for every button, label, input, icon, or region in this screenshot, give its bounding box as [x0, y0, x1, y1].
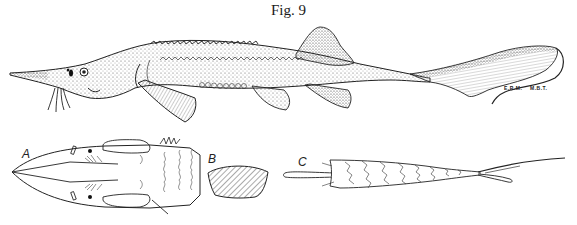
anal-fin	[305, 84, 351, 108]
barbels	[48, 88, 70, 112]
panel-b-scute-detail: B	[208, 152, 268, 198]
panel-a-head-ventral-view: A	[12, 137, 200, 214]
body	[10, 40, 430, 98]
panel-label-b: B	[208, 152, 216, 166]
pelvic-fin	[252, 86, 290, 110]
figure-illustration: E.R.M. M.B.T. A B	[0, 0, 577, 225]
panel-c-caudal-peduncle-dorsal-view: C	[284, 155, 566, 188]
panel-label-c: C	[298, 155, 307, 169]
credit-mbt: M.B.T.	[530, 85, 548, 91]
pectoral-fin	[138, 80, 196, 122]
panel-label-a: A	[21, 147, 30, 161]
sturgeon-lateral-view: E.R.M. M.B.T.	[10, 27, 563, 122]
credit-erm: E.R.M.	[504, 85, 522, 91]
nostril	[69, 70, 73, 77]
